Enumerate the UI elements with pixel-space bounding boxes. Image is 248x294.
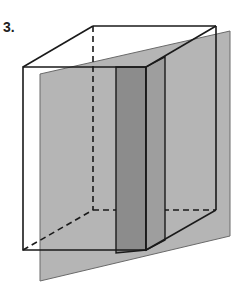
top-left-depth-edge <box>23 26 93 67</box>
prism-plane-diagram <box>0 0 248 294</box>
cross-section-front <box>116 67 146 253</box>
cross-section-side <box>146 57 165 250</box>
